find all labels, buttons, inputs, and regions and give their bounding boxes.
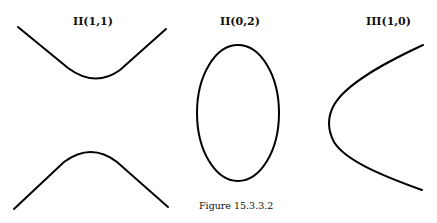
hyperbola-lower-branch — [14, 152, 168, 209]
ellipse-curve — [197, 45, 279, 181]
figure-caption: Figure 15.3.3.2 — [199, 200, 273, 211]
hyperbola-upper-branch — [18, 27, 166, 79]
parabola-curve — [329, 45, 423, 190]
conic-diagrams — [0, 0, 437, 223]
